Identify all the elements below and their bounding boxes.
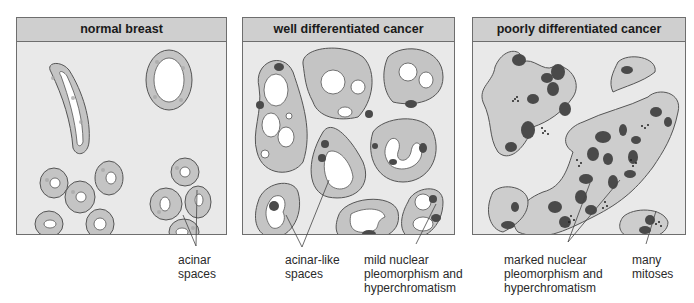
normal-breast-illustration — [17, 42, 226, 234]
label-marked-nuclear-pleomorphism: marked nuclear pleomorphism and hyperchr… — [504, 253, 603, 295]
panel-well-differentiated: well differentiated cancer — [242, 17, 455, 235]
well-differentiated-illustration — [243, 42, 454, 234]
label-acinar-spaces: acinar spaces — [178, 253, 216, 281]
panel-poorly-differentiated: poorly differentiated cancer — [472, 17, 686, 235]
panel-title: normal breast — [17, 18, 226, 42]
panel-title: well differentiated cancer — [243, 18, 454, 42]
label-acinar-like-spaces: acinar-like spaces — [285, 253, 340, 281]
label-many-mitoses: many mitoses — [632, 253, 673, 281]
panel-title: poorly differentiated cancer — [473, 18, 685, 42]
poorly-differentiated-illustration — [473, 42, 685, 234]
label-mild-nuclear-pleomorphism: mild nuclear pleomorphism and hyperchrom… — [364, 253, 463, 295]
panel-normal-breast: normal breast — [16, 17, 227, 235]
